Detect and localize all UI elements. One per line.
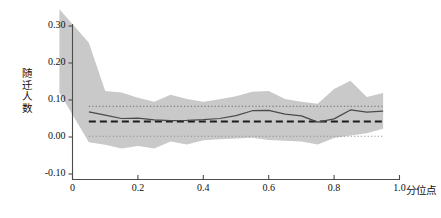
y-axis-title-char-2: 迁 — [20, 80, 34, 92]
y-tick-label: 0.20 — [48, 56, 66, 67]
y-axis-title-char-3: 人 — [20, 91, 34, 103]
x-tick-label: 1.0 — [388, 182, 412, 193]
confidence-band — [59, 9, 383, 148]
y-tick-label: -0.10 — [45, 167, 66, 178]
x-tick-label: 0.4 — [191, 182, 215, 193]
y-tick-label: 0.10 — [48, 93, 66, 104]
quantile-regression-chart: 随 迁 人 数 分位点 -0.100.000.100.200.30 00.20.… — [0, 0, 441, 218]
x-tick-label: 0 — [61, 182, 85, 193]
y-axis-title: 随 迁 人 数 — [20, 68, 34, 114]
x-tick-label: 0.2 — [126, 182, 150, 193]
y-axis-title-char-4: 数 — [20, 103, 34, 115]
y-tick-label: 0.30 — [48, 19, 66, 30]
y-tick-label: 0.00 — [48, 130, 66, 141]
y-axis-title-char-1: 随 — [20, 68, 34, 80]
x-tick-label: 0.6 — [257, 182, 281, 193]
x-axis-ticks — [73, 175, 400, 180]
x-tick-label: 0.8 — [322, 182, 346, 193]
